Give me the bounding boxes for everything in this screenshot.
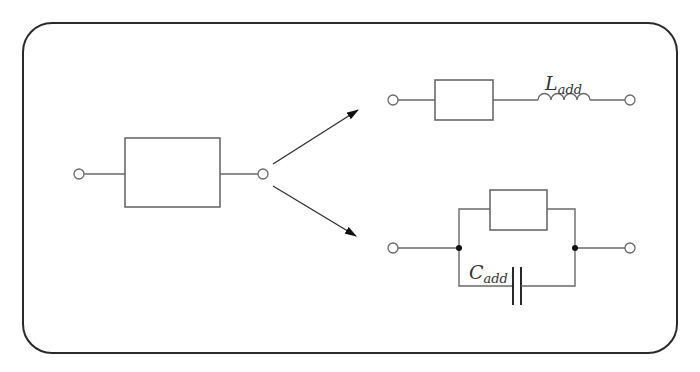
lower-circuit (388, 190, 635, 305)
lower-output-terminal (625, 243, 635, 253)
capacitor-label: Cadd (469, 261, 508, 283)
capacitor-label-sub: add (484, 271, 508, 286)
arrow-down-icon (273, 186, 356, 236)
left-circuit (74, 138, 268, 207)
lower-top-right-rail (547, 209, 575, 248)
lower-top-left-rail (459, 209, 490, 248)
junction-node-right (572, 245, 578, 251)
left-input-terminal (74, 169, 84, 179)
left-output-terminal (258, 169, 268, 179)
inductor-label-sub: add (558, 82, 582, 97)
lower-bottom-right-rail (521, 248, 575, 286)
lower-impedance-box (490, 190, 547, 230)
circuit-svg (0, 0, 700, 372)
capacitor-label-main: C (469, 261, 484, 283)
upper-impedance-box (435, 80, 493, 120)
arrow-up-icon (273, 110, 358, 164)
inductor-label: Ladd (545, 72, 582, 94)
junction-node-left (456, 245, 462, 251)
upper-input-terminal (388, 95, 398, 105)
inductor-label-main: L (545, 72, 558, 94)
upper-output-terminal (625, 95, 635, 105)
upper-circuit (388, 80, 635, 120)
diagram-canvas: Ladd Cadd (0, 0, 700, 372)
branch-arrows (273, 110, 358, 236)
left-impedance-box (125, 138, 220, 207)
lower-input-terminal (388, 243, 398, 253)
